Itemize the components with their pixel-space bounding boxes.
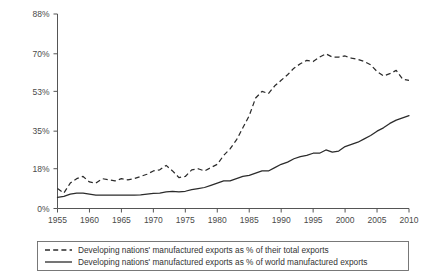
x-tick-label: 1980 — [208, 215, 227, 225]
line-chart: 0%18%35%53%70%88% 1955196019651970197519… — [0, 0, 422, 276]
chart-background — [0, 0, 422, 276]
y-tick-label: 53% — [32, 87, 49, 97]
y-tick-label: 18% — [32, 164, 49, 174]
x-tick-label: 1995 — [304, 215, 323, 225]
x-tick-label: 1975 — [176, 215, 195, 225]
x-tick-label: 2000 — [336, 215, 355, 225]
x-tick-label: 1990 — [272, 215, 291, 225]
x-tick-label: 1985 — [240, 215, 259, 225]
x-tick-label: 1965 — [112, 215, 131, 225]
x-tick-label: 1970 — [144, 215, 163, 225]
legend-label-world-exports: Developing nations' manufactured exports… — [78, 257, 367, 267]
legend-label-total-exports: Developing nations' manufactured exports… — [78, 245, 329, 255]
y-tick-label: 35% — [32, 126, 49, 136]
x-tick-label: 2010 — [400, 215, 419, 225]
x-tick-label: 1955 — [48, 215, 67, 225]
x-tick-label: 1960 — [80, 215, 99, 225]
x-tick-label: 2005 — [368, 215, 387, 225]
chart-legend: Developing nations' manufactured exports… — [38, 242, 409, 271]
y-tick-label: 70% — [32, 49, 49, 59]
y-tick-label: 88% — [32, 9, 49, 19]
y-tick-label: 0% — [37, 204, 50, 214]
